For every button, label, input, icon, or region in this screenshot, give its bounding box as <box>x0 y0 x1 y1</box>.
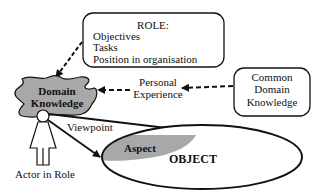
domain-knowledge-line1: Domain <box>38 85 75 97</box>
common-line1: Common <box>252 71 293 83</box>
common-to-experience-arrow <box>182 86 233 88</box>
common-line3: Knowledge <box>247 96 298 108</box>
domain-knowledge-line2: Knowledge <box>31 97 84 109</box>
role-box: ROLE: Objectives Tasks Position in organ… <box>83 13 224 67</box>
aspect-label: Aspect <box>124 142 156 154</box>
role-to-knowledge-arrow <box>56 42 82 77</box>
personal-experience-line1: Personal <box>139 76 177 88</box>
object-label: OBJECT <box>169 152 217 166</box>
object-ellipse: Aspect OBJECT <box>100 125 302 189</box>
common-line2: Domain <box>254 83 290 95</box>
role-title: ROLE: <box>137 19 169 31</box>
viewpoint-label: Viewpoint <box>67 121 113 133</box>
role-item-tasks: Tasks <box>93 41 118 53</box>
role-item-position: Position in organisation <box>93 53 198 65</box>
domain-knowledge-diagram: ROLE: Objectives Tasks Position in organ… <box>0 0 324 195</box>
common-domain-knowledge-box: Common Domain Knowledge <box>234 68 310 116</box>
personal-experience-line2: Experience <box>133 88 183 100</box>
actor-head <box>37 110 49 122</box>
domain-knowledge-blob: Domain Knowledge <box>15 76 97 117</box>
actor-in-role-label: Actor in Role <box>15 168 75 180</box>
actor-figure <box>30 110 56 165</box>
